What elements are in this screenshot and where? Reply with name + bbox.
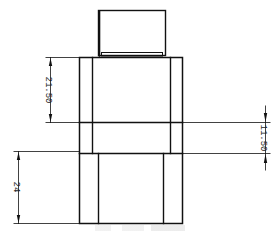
dimension-lower-left xyxy=(14,152,79,224)
dimension-label-upper-left: 21.50 xyxy=(43,76,53,103)
top-block xyxy=(99,11,166,57)
technical-drawing: 21.50 24 11.50 xyxy=(0,0,277,236)
dimension-label-lower-left: 24 xyxy=(11,182,21,193)
main-body xyxy=(80,58,183,224)
figure-caption xyxy=(95,225,185,231)
dimension-middle-right xyxy=(183,106,271,170)
dimension-label-middle-right: 11.50 xyxy=(258,124,268,151)
